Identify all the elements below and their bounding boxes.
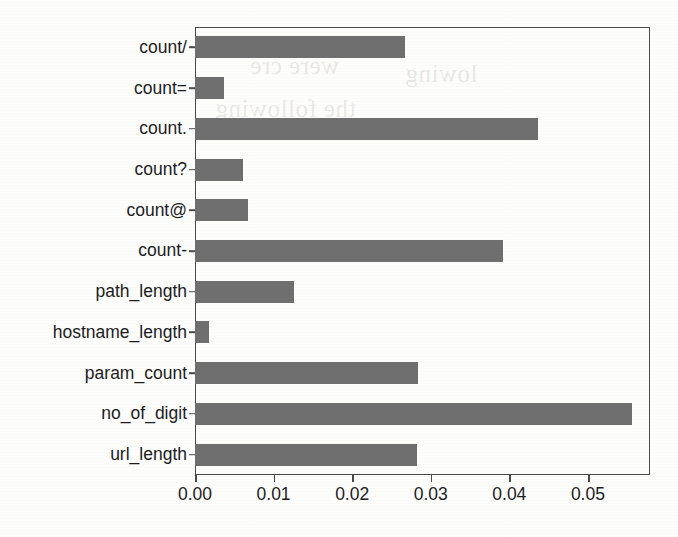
y-tick-label-row: path_length: [0, 271, 188, 312]
bar-row: [195, 312, 650, 353]
y-tick-label: count=: [134, 78, 188, 99]
bar-count: [195, 240, 503, 262]
y-tick-label: count@: [126, 200, 188, 221]
bar-row: [195, 149, 650, 190]
bar-row: [195, 434, 650, 475]
x-tick-label: 0.03: [414, 484, 448, 505]
y-tick-label: count-: [138, 240, 188, 261]
x-tick-mark: [274, 475, 276, 482]
bar-row: [195, 231, 650, 272]
bar-hostname-length: [195, 321, 209, 343]
bar-row: [195, 68, 650, 109]
bar-row: [195, 353, 650, 394]
y-tick-label: param_count: [85, 363, 188, 384]
y-tick-label: path_length: [96, 281, 188, 302]
y-axis-labels: count/count=count.count?count@count-path…: [0, 27, 188, 475]
y-tick-label: url_length: [110, 444, 188, 465]
x-tick-label: 0.04: [492, 484, 526, 505]
x-tick-mark: [352, 475, 354, 482]
y-tick-label-row: count/: [0, 27, 188, 68]
bar-chart-figure: were crethe followinglowing count/count=…: [0, 0, 678, 537]
y-tick-label: count/: [139, 37, 188, 58]
bar-count: [195, 77, 224, 99]
bars-layer: [195, 27, 650, 475]
bar-count: [195, 118, 538, 140]
x-tick-label: 0.02: [335, 484, 369, 505]
bar-row: [195, 394, 650, 435]
bar-url-length: [195, 444, 417, 466]
x-tick-mark: [509, 475, 511, 482]
bar-count: [195, 159, 243, 181]
bar-row: [195, 271, 650, 312]
y-tick-label-row: no_of_digit: [0, 394, 188, 435]
x-tick-label: 0.05: [571, 484, 605, 505]
y-tick-label-row: count-: [0, 231, 188, 272]
bar-row: [195, 190, 650, 231]
bar-count: [195, 199, 248, 221]
bar-count: [195, 36, 405, 58]
y-tick-label: count.: [139, 118, 188, 139]
x-tick-label: 0.00: [178, 484, 212, 505]
x-tick-mark: [195, 475, 197, 482]
x-tick-mark: [588, 475, 590, 482]
y-tick-label-row: count=: [0, 68, 188, 109]
y-tick-label-row: hostname_length: [0, 312, 188, 353]
y-tick-label-row: url_length: [0, 434, 188, 475]
y-tick-label: no_of_digit: [101, 403, 188, 424]
x-tick-mark: [431, 475, 433, 482]
x-tick-label: 0.01: [257, 484, 291, 505]
y-tick-label: count?: [134, 159, 188, 180]
bar-row: [195, 108, 650, 149]
y-tick-label-row: count@: [0, 190, 188, 231]
y-tick-label-row: count.: [0, 108, 188, 149]
y-tick-label: hostname_length: [53, 322, 188, 343]
y-tick-label-row: param_count: [0, 353, 188, 394]
y-tick-label-row: count?: [0, 149, 188, 190]
bar-path-length: [195, 281, 294, 303]
bar-no-of-digit: [195, 403, 632, 425]
bar-row: [195, 27, 650, 68]
x-axis-ticks: 0.000.010.020.030.040.05: [195, 475, 650, 515]
bar-param-count: [195, 362, 418, 384]
